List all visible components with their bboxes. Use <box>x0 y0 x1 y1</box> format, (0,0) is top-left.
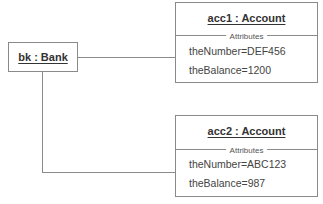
object-title: acc2 : Account <box>176 125 317 137</box>
object-title: bk : Bank <box>9 51 77 63</box>
attribute: theNumber=DEF456 <box>189 45 286 57</box>
link-bank-acc2-horizontal <box>42 172 175 173</box>
attributes-compartment-divider: Attributes <box>176 149 317 150</box>
object-acc2: acc2 : Account Attributes theNumber=ABC1… <box>175 115 318 197</box>
object-bank: bk : Bank <box>8 42 78 72</box>
compartment-label: Attributes <box>226 146 268 155</box>
compartment-label: Attributes <box>226 32 268 41</box>
attribute: theBalance=1200 <box>189 64 271 76</box>
link-bank-acc1 <box>77 57 175 58</box>
object-title: acc1 : Account <box>176 12 317 24</box>
attribute: theNumber=ABC123 <box>189 158 286 170</box>
attribute: theBalance=987 <box>189 177 265 189</box>
link-bank-acc2-vertical <box>42 72 43 172</box>
attributes-compartment-divider: Attributes <box>176 35 317 36</box>
object-acc1: acc1 : Account Attributes theNumber=DEF4… <box>175 2 318 83</box>
